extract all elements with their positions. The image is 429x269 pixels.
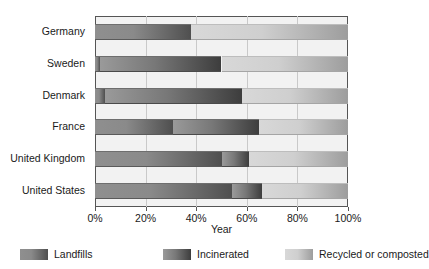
legend-swatch-recycled [285, 249, 313, 260]
y-axis-category-labels: Germany Sweden Denmark France United Kin… [0, 16, 90, 207]
bar-segment-incinerated [105, 88, 242, 104]
bar-row [95, 24, 348, 40]
x-axis-ticks: 0%20%40%60%80%100% [95, 207, 348, 223]
plot-area [95, 16, 348, 207]
bar-row [95, 183, 348, 199]
bar-segment-recycled [222, 56, 349, 72]
chart-legend: LandfillsIncineratedRecycled or composte… [20, 247, 370, 263]
y-axis-label-united-states: United States [22, 185, 85, 196]
x-tick-mark-60 [247, 207, 248, 211]
bar-segment-recycled [262, 183, 348, 199]
legend-swatch-incinerated [163, 249, 191, 260]
bar-segment-recycled [242, 88, 348, 104]
x-tick-mark-0 [95, 207, 96, 211]
legend-item-recycled: Recycled or composted [285, 247, 429, 261]
y-axis-label-sweden: Sweden [47, 58, 85, 69]
legend-swatch-landfills [20, 249, 48, 260]
y-axis-label-germany: Germany [42, 26, 85, 37]
bar-segment-incinerated [222, 151, 250, 167]
bar-segment-landfills [95, 119, 173, 135]
bar-segment-recycled [249, 151, 348, 167]
x-tick-mark-40 [196, 207, 197, 211]
bar-row [95, 119, 348, 135]
legend-label-incinerated: Incinerated [197, 248, 249, 260]
x-tick-mark-100 [348, 207, 349, 211]
bar-segment-landfills [95, 183, 232, 199]
x-tick-mark-80 [297, 207, 298, 211]
bar-segment-incinerated [232, 183, 262, 199]
x-tick-mark-20 [146, 207, 147, 211]
bar-row [95, 88, 348, 104]
y-axis-label-united-kingdom: United Kingdom [10, 153, 85, 164]
legend-label-recycled: Recycled or composted [319, 248, 429, 260]
bar-segment-landfills [95, 88, 105, 104]
y-axis-label-france: France [52, 121, 85, 132]
bar-segment-landfills [95, 151, 222, 167]
bar-segment-landfills [95, 24, 191, 40]
x-axis-title: Year [95, 223, 348, 235]
bar-segment-recycled [259, 119, 348, 135]
bar-row [95, 151, 348, 167]
bars-layer [95, 16, 348, 207]
bar-segment-incinerated [100, 56, 221, 72]
bar-row [95, 56, 348, 72]
bar-segment-incinerated [173, 119, 259, 135]
legend-item-landfills: Landfills [20, 247, 93, 261]
legend-item-incinerated: Incinerated [163, 247, 249, 261]
legend-label-landfills: Landfills [54, 248, 93, 260]
y-axis-label-denmark: Denmark [42, 90, 85, 101]
bar-segment-recycled [191, 24, 348, 40]
